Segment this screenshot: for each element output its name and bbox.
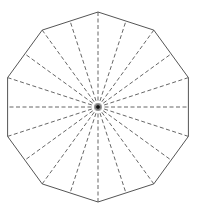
- midpoint-radial-line: [98, 21, 126, 107]
- vertex-radial-line: [98, 107, 188, 136]
- vertex-radial-line: [98, 30, 154, 107]
- midpoint-radial-line: [70, 107, 98, 193]
- midpoint-radial-line: [98, 107, 171, 160]
- decagon-diagram: [0, 0, 197, 208]
- midpoint-radial-line: [98, 54, 171, 107]
- midpoint-radial-line: [25, 54, 98, 107]
- midpoint-radial-line: [98, 107, 126, 193]
- vertex-radial-line: [8, 78, 98, 107]
- midpoint-radial-line: [25, 107, 98, 160]
- vertex-radial-line: [42, 30, 98, 107]
- center-point: [96, 105, 100, 109]
- vertex-radial-line: [98, 107, 154, 184]
- vertex-radial-line: [98, 78, 188, 107]
- midpoint-radial-line: [70, 21, 98, 107]
- vertex-radial-line: [42, 107, 98, 184]
- vertex-radial-line: [8, 107, 98, 136]
